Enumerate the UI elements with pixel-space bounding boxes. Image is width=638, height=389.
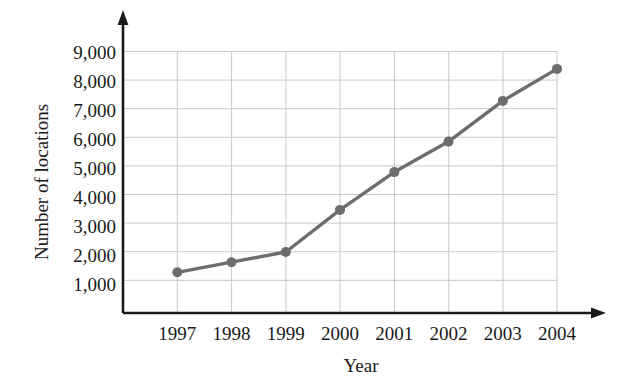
y-tick-label-3000: 3,000 [73, 216, 116, 237]
data-point-1997 [172, 267, 182, 277]
vertical-gridlines [177, 52, 557, 314]
x-tick-label-2004: 2004 [538, 323, 577, 344]
x-tick-label-2001: 2001 [375, 323, 413, 344]
data-point-2001 [389, 167, 399, 177]
y-tick-label-2000: 2,000 [73, 245, 116, 266]
line-chart: 1,0002,0003,0004,0005,0006,0007,0008,000… [0, 0, 638, 389]
y-tick-label-7000: 7,000 [73, 100, 116, 121]
data-point-2000 [335, 205, 345, 215]
data-point-2002 [444, 137, 454, 147]
y-axis-arrow-icon [118, 10, 129, 25]
x-axis-title: Year [343, 355, 379, 376]
y-axis-title: Number of locations [31, 104, 52, 260]
data-point-1999 [281, 247, 291, 257]
y-tick-label-8000: 8,000 [73, 71, 116, 92]
y-tick-label-9000: 9,000 [73, 42, 116, 63]
x-axis-tick-labels: 19971998199920002001200220032004 [158, 323, 576, 344]
y-tick-label-1000: 1,000 [73, 274, 116, 295]
x-tick-label-2002: 2002 [430, 323, 468, 344]
x-tick-label-2003: 2003 [484, 323, 522, 344]
x-tick-label-1998: 1998 [213, 323, 251, 344]
y-axis [118, 10, 129, 313]
chart-canvas: 1,0002,0003,0004,0005,0006,0007,0008,000… [0, 0, 638, 389]
x-axis-arrow-icon [591, 308, 606, 319]
y-tick-label-5000: 5,000 [73, 158, 116, 179]
data-point-markers [172, 64, 562, 277]
y-tick-label-6000: 6,000 [73, 129, 116, 150]
y-axis-tick-labels: 1,0002,0003,0004,0005,0006,0007,0008,000… [73, 42, 116, 295]
data-point-2004 [552, 64, 562, 74]
x-tick-label-2000: 2000 [321, 323, 359, 344]
data-point-2003 [498, 96, 508, 106]
y-tick-label-4000: 4,000 [73, 187, 116, 208]
x-axis [123, 308, 606, 319]
x-tick-label-1999: 1999 [267, 323, 305, 344]
x-tick-label-1997: 1997 [158, 323, 196, 344]
data-point-1998 [227, 257, 237, 267]
